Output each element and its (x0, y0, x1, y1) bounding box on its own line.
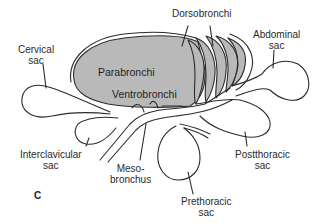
panel-letter: C (34, 190, 41, 201)
label-abdominal-line2: sac (253, 40, 300, 51)
label-interclavicular-line2: sac (20, 160, 82, 171)
prethoracic-duct (180, 124, 210, 138)
label-abdominal-line1: Abdominal (253, 29, 300, 40)
label-mesobronchus-line2: bronchus (110, 174, 151, 185)
label-mesobronchus: Meso- bronchus (110, 163, 151, 185)
label-parabronchi: Parabronchi (98, 66, 155, 78)
label-postthoracic-sac: Postthoracic sac (235, 149, 290, 171)
label-dorsobronchi: Dorsobronchi (172, 8, 231, 19)
label-cervical-line1: Cervical (18, 44, 54, 55)
label-prethoracic-sac: Prethoracic sac (181, 196, 232, 218)
leader-cervical (43, 64, 46, 88)
prethoracic-sac (158, 126, 200, 180)
label-abdominal-sac: Abdominal sac (253, 29, 300, 51)
label-interclavicular-sac: Interclavicular sac (20, 149, 82, 171)
label-ventrobronchi: Ventrobronchi (112, 88, 177, 100)
postthoracic-sac (196, 99, 270, 137)
label-dorsobronchi-text: Dorsobronchi (172, 8, 231, 19)
label-interclavicular-line1: Interclavicular (20, 149, 82, 160)
leader-abdominal (273, 50, 274, 68)
leader-postthoracic (245, 132, 247, 146)
interclavicular-sac (75, 117, 118, 144)
label-postthoracic-line1: Postthoracic (235, 149, 290, 160)
label-postthoracic-line2: sac (235, 160, 290, 171)
label-prethoracic-line2: sac (181, 207, 232, 218)
label-prethoracic-line1: Prethoracic (181, 196, 232, 207)
label-mesobronchus-line1: Meso- (110, 163, 151, 174)
label-cervical-line2: sac (18, 55, 54, 66)
label-cervical-sac: Cervical sac (18, 44, 54, 66)
leader-mesobronchus (140, 124, 146, 160)
